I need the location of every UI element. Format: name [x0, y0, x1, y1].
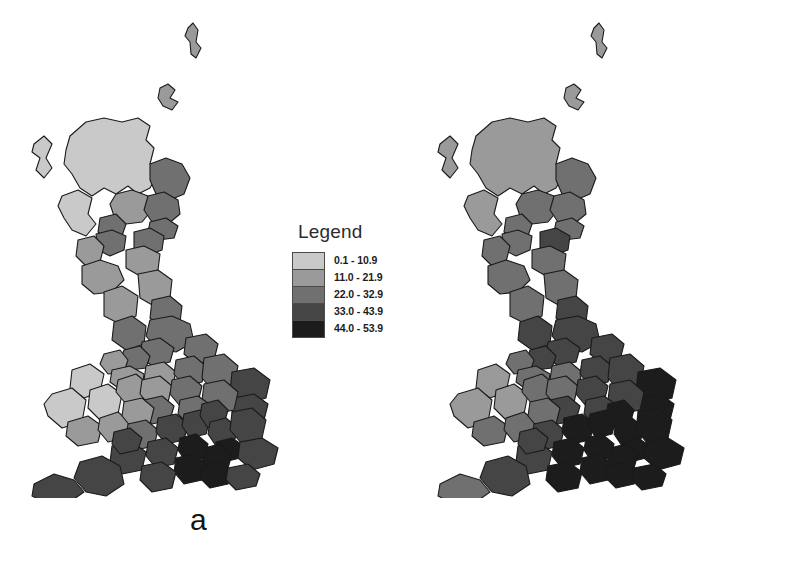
legend-a-title: Legend	[298, 222, 383, 241]
map-area: Argyll & Bute	[464, 190, 502, 236]
map-area: Glamorgan	[66, 416, 102, 446]
map-b: ShetlandOrkneyHighlandWestern IslesMoray…	[406, 18, 706, 498]
legend-swatch-3	[293, 287, 324, 304]
map-area: Dorset	[546, 462, 582, 492]
legend-swatch-5	[293, 321, 324, 337]
legend-range-1: 0.1 - 10.9	[334, 252, 383, 269]
map-area: Shetland	[591, 23, 607, 58]
map-area: Orkney	[158, 84, 178, 110]
legend-range-4: 33.0 - 43.9	[334, 303, 383, 320]
legend-range-5: 44.0 - 53.9	[334, 320, 383, 337]
map-a: ShetlandOrkneyHighlandWestern IslesMoray…	[0, 18, 300, 498]
map-area: Western Isles	[438, 136, 458, 178]
map-area: Highland	[470, 118, 564, 196]
legend-a: Legend 0.1 - 10.911.0 - 21.922.0 - 32.93…	[292, 222, 383, 338]
map-area: Lancashire	[518, 316, 552, 350]
legend-a-body: 0.1 - 10.911.0 - 21.922.0 - 32.933.0 - 4…	[292, 252, 383, 338]
map-area: Western Isles	[32, 136, 52, 178]
map-area: Shetland	[185, 23, 201, 58]
panel-letter-a: a	[190, 505, 207, 535]
map-area: Argyll & Bute	[58, 190, 96, 236]
map-area: Highland	[64, 118, 158, 196]
legend-range-3: 22.0 - 32.9	[334, 286, 383, 303]
legend-a-swatches	[292, 252, 325, 338]
legend-swatch-2	[293, 270, 324, 287]
map-panel-b: ShetlandOrkneyHighlandWestern IslesMoray…	[406, 0, 811, 569]
map-area: Lancashire	[112, 316, 146, 350]
map-area: Orkney	[564, 84, 584, 110]
legend-range-2: 11.0 - 21.9	[334, 269, 383, 286]
map-panel-a: ShetlandOrkneyHighlandWestern IslesMoray…	[0, 0, 405, 569]
map-area: Glamorgan	[472, 416, 508, 446]
map-a-svg: ShetlandOrkneyHighlandWestern IslesMoray…	[0, 18, 300, 498]
map-b-svg: ShetlandOrkneyHighlandWestern IslesMoray…	[406, 18, 706, 498]
map-area: Dorset	[140, 462, 176, 492]
legend-swatch-4	[293, 304, 324, 321]
legend-a-labels: 0.1 - 10.911.0 - 21.922.0 - 32.933.0 - 4…	[334, 252, 383, 337]
legend-swatch-1	[293, 253, 324, 270]
figure-container: ShetlandOrkneyHighlandWestern IslesMoray…	[0, 0, 811, 569]
